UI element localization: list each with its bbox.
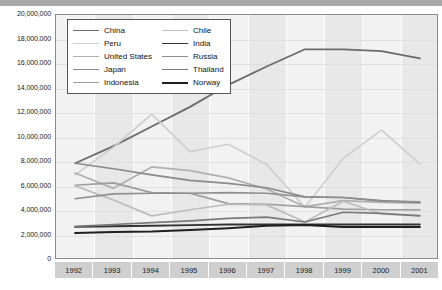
x-axis: 1992199319941995199619971998199920002001 <box>55 262 438 278</box>
legend-item[interactable]: Russia <box>162 50 224 63</box>
legend-swatch-icon <box>162 56 188 57</box>
y-axis-tick-label: 20,000,000 <box>1 10 51 18</box>
x-axis-tick-label: 1992 <box>55 262 93 278</box>
y-axis-tick-label: 14,000,000 <box>1 84 51 92</box>
legend-swatch-icon <box>162 30 188 31</box>
legend-swatch-icon <box>73 69 99 70</box>
legend-swatch-icon <box>73 56 99 57</box>
y-axis-tick-label: 18,000,000 <box>1 35 51 43</box>
legend-label: India <box>193 39 210 48</box>
legend-label: Thailand <box>193 65 224 74</box>
line-chart: 20,000,00018,000,00016,000,00014,000,000… <box>0 6 442 290</box>
legend-label: Norway <box>193 78 220 87</box>
legend-item[interactable]: United States <box>73 50 152 63</box>
legend-item[interactable]: Norway <box>162 76 224 89</box>
y-axis: 20,000,00018,000,00016,000,00014,000,000… <box>0 6 51 290</box>
legend-swatch-icon <box>73 82 99 83</box>
legend-item[interactable]: China <box>73 24 152 37</box>
legend-swatch-icon <box>73 30 99 31</box>
x-axis-tick-label: 1995 <box>170 262 208 278</box>
legend-label: Chile <box>193 26 211 35</box>
x-axis-tick-label: 1993 <box>93 262 131 278</box>
legend-item[interactable]: Peru <box>73 37 152 50</box>
x-axis-tick-label: 1994 <box>132 262 170 278</box>
legend-label: United States <box>104 52 152 61</box>
y-axis-tick-label: 0 <box>1 255 51 263</box>
legend: ChinaChilePeruIndiaUnited StatesRussiaJa… <box>67 19 231 94</box>
chart-figure: 20,000,00018,000,00016,000,00014,000,000… <box>0 0 442 290</box>
x-axis-tick-label: 2001 <box>401 262 438 278</box>
plot-wrapper: ChinaChilePeruIndiaUnited StatesRussiaJa… <box>55 14 438 259</box>
x-axis-tick-label: 1999 <box>324 262 362 278</box>
y-axis-tick-label: 2,000,000 <box>1 231 51 239</box>
legend-swatch-icon <box>162 43 188 44</box>
x-axis-tick-label: 2000 <box>362 262 400 278</box>
legend-swatch-icon <box>162 82 188 84</box>
y-axis-tick-label: 10,000,000 <box>1 133 51 141</box>
y-axis-tick-label: 4,000,000 <box>1 206 51 214</box>
legend-label: Russia <box>193 52 217 61</box>
legend-label: Peru <box>104 39 121 48</box>
legend-swatch-icon <box>73 43 99 44</box>
legend-item[interactable]: India <box>162 37 224 50</box>
legend-item[interactable]: Indonesia <box>73 76 152 89</box>
legend-item[interactable]: Japan <box>73 63 152 76</box>
series-line <box>75 193 420 202</box>
legend-label: Indonesia <box>104 78 139 87</box>
legend-label: China <box>104 26 125 35</box>
legend-label: Japan <box>104 65 126 74</box>
y-axis-tick-label: 12,000,000 <box>1 108 51 116</box>
series-line <box>75 186 420 222</box>
legend-item[interactable]: Thailand <box>162 63 224 76</box>
x-axis-tick-label: 1997 <box>247 262 285 278</box>
legend-swatch-icon <box>162 69 188 70</box>
y-axis-tick-label: 8,000,000 <box>1 157 51 165</box>
legend-item[interactable]: Chile <box>162 24 224 37</box>
x-axis-tick-label: 1996 <box>209 262 247 278</box>
y-axis-tick-label: 6,000,000 <box>1 182 51 190</box>
x-axis-tick-label: 1998 <box>285 262 323 278</box>
y-axis-tick-label: 16,000,000 <box>1 59 51 67</box>
